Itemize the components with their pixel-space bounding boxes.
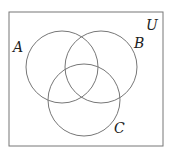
set-a-circle xyxy=(26,31,98,103)
set-c-label: C xyxy=(114,120,125,136)
universe-rect xyxy=(9,12,163,146)
set-b-circle xyxy=(65,31,137,103)
universe-label: U xyxy=(146,17,159,33)
venn-diagram: U A B C xyxy=(0,0,171,152)
set-b-label: B xyxy=(133,35,144,51)
set-a-label: A xyxy=(11,39,23,55)
set-c-circle xyxy=(48,64,120,136)
